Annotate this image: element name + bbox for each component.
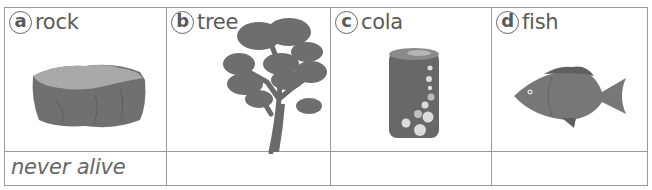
letter-badge: a [9, 11, 32, 34]
item-label: d fish [496, 10, 558, 34]
answer-cell-tree[interactable] [167, 152, 330, 186]
letter-badge: c [335, 11, 358, 34]
letter-badge: d [496, 11, 519, 34]
item-name: cola [361, 10, 403, 34]
answer-text: never alive [11, 155, 126, 179]
item-label: c cola [335, 10, 403, 34]
classification-table: a rock b tree c [4, 7, 648, 186]
answer-cell-cola[interactable] [331, 152, 491, 186]
item-cell-tree: b tree [167, 8, 330, 151]
fish-icon [514, 62, 634, 130]
item-name: rock [35, 10, 79, 34]
letter-badge: b [171, 11, 194, 34]
item-name: fish [522, 10, 558, 34]
rock-icon [25, 60, 150, 132]
cola-can-icon [387, 46, 443, 142]
answer-cell-rock[interactable]: never alive [5, 152, 166, 186]
tree-icon [219, 14, 329, 154]
item-label: a rock [9, 10, 79, 34]
item-cell-rock: a rock [5, 8, 166, 151]
item-cell-cola: c cola [331, 8, 491, 151]
answer-cell-fish[interactable] [492, 152, 649, 186]
item-cell-fish: d fish [492, 8, 649, 151]
